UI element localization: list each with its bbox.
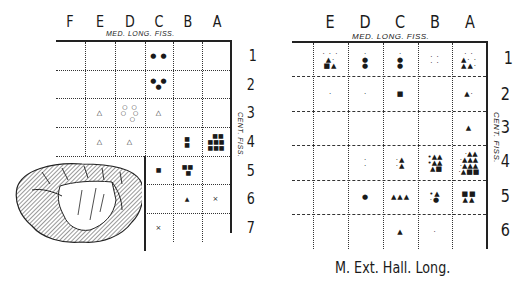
left-col-label-A: A <box>209 13 226 31</box>
left-hline <box>56 156 230 157</box>
right-col-label-E: E <box>322 12 339 32</box>
left-cell-D4: △ <box>127 139 133 145</box>
right-cell-D2: · <box>364 91 367 97</box>
left-row-label-4: 4 <box>247 133 255 151</box>
right-cell-D4: · · <box>364 157 367 169</box>
left-row-label-1: 1 <box>249 47 257 65</box>
left-col-label-B: B <box>180 13 197 31</box>
right-cell-C1: · ● ● <box>397 51 404 69</box>
left-col-label-F: F <box>62 13 79 31</box>
left-cell-B4: ■ ■ <box>184 136 191 148</box>
brain-illustration <box>12 160 142 246</box>
left-cell-A6: × <box>213 196 220 202</box>
left-col-label-C: C <box>151 13 168 31</box>
right-right-border <box>486 41 488 249</box>
right-col-label-D: D <box>357 12 374 32</box>
right-cell-A3: ▲ <box>466 125 472 131</box>
figure-caption: M. Ext. Hall. Long. <box>335 259 450 277</box>
right-cell-B1: · · · · <box>430 54 440 66</box>
right-col-label-C: C <box>392 12 409 32</box>
left-cell-E3: △ <box>97 110 103 116</box>
left-row-label-3: 3 <box>247 104 255 122</box>
right-cell-A5: ■■ ▲▲ <box>461 191 476 203</box>
right-cell-B6: · <box>433 229 436 235</box>
right-cell-C4: ·▲ ·▲ <box>396 157 406 169</box>
left-cell-C3: △ <box>156 110 162 116</box>
left-col-label-D: D <box>122 13 139 31</box>
left-cent-fiss-label: CENT. FISS. <box>237 112 244 157</box>
right-row-label-4: 4 <box>501 151 510 171</box>
right-cell-D5: ● <box>362 194 369 200</box>
left-cell-C7: × <box>156 225 163 231</box>
right-row-label-6: 6 <box>501 220 510 240</box>
left-row-label-5: 5 <box>247 162 255 180</box>
right-cell-A2: ▲· <box>464 91 474 97</box>
left-row-label-2: 2 <box>247 76 255 94</box>
right-cell-E1: · · · ▲· ■▲ <box>322 51 338 69</box>
left-hline <box>56 70 230 71</box>
right-col-label-B: B <box>427 12 444 32</box>
left-med-long-fiss-label: MED. LONG. FISS. <box>106 30 175 37</box>
left-cell-D3: ○ ○ ○ ○ ○ <box>121 104 139 122</box>
right-cell-B4: •▲▲ •▲▲ ▲■ <box>428 154 443 172</box>
left-cell-C1: ● ● <box>150 53 167 59</box>
right-cent-fiss-label: CENT. FISS. <box>492 112 501 163</box>
right-row-label-3: 3 <box>501 117 510 137</box>
left-cell-C5: ■ <box>156 167 163 173</box>
left-col-label-E: E <box>92 13 109 31</box>
left-cell-A4: ■■ ■■■ ■■■ <box>207 133 224 151</box>
right-row-label-2: 2 <box>501 84 510 104</box>
right-cell-E2: · <box>329 91 332 97</box>
right-col-label-A: A <box>462 12 479 32</box>
right-med-long-fiss-label: MED. LONG. FISS. <box>352 32 429 41</box>
left-cell-B6: ▲ <box>185 196 191 202</box>
left-right-border <box>230 40 232 233</box>
right-cell-A1: · · ▲· · ▲▲· <box>461 51 477 69</box>
right-row-label-5: 5 <box>501 186 510 206</box>
left-top-border <box>56 40 232 42</box>
right-cell-B5: •▲ ·● <box>429 191 441 203</box>
right-cell-A4: ·▲▲ ·▲▲▲ ·▲▲▲ ·▲■■ <box>459 151 480 175</box>
right-cell-C6: ▲ <box>397 229 403 235</box>
right-cell-D1: · ● ● <box>362 51 369 69</box>
left-cell-C2: ● ● ● <box>150 78 167 90</box>
right-cell-C2: ■ <box>397 91 405 97</box>
left-row-label-6: 6 <box>247 190 255 208</box>
right-row-label-1: 1 <box>504 48 513 68</box>
left-cell-B5: ■■ ■ <box>182 164 193 176</box>
left-cell-E4: △ <box>97 139 103 145</box>
left-row-label-7: 7 <box>247 219 255 237</box>
right-cell-C5: ▲▲▲ <box>391 194 410 200</box>
